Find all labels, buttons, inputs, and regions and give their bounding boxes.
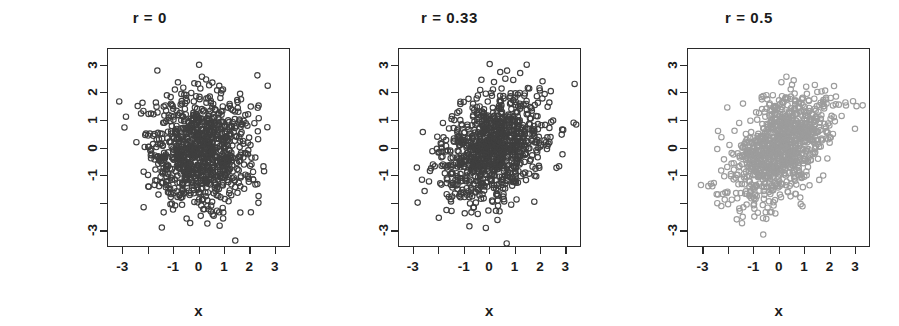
y-tick-mark <box>391 203 398 204</box>
x-tick-mark <box>702 247 703 254</box>
x-tick-label: 3 <box>552 259 578 274</box>
y-tick-mark <box>391 120 398 121</box>
x-tick-mark <box>249 247 250 254</box>
plot-area <box>398 48 581 247</box>
x-tick-mark <box>515 247 516 254</box>
x-tick-mark <box>830 247 831 254</box>
x-tick-mark <box>148 247 149 254</box>
x-tick-mark <box>224 247 225 254</box>
scatter-points <box>688 49 870 247</box>
x-tick-mark <box>275 247 276 254</box>
x-tick-label: -1 <box>160 259 186 274</box>
y-tick-label: 1 <box>666 107 680 133</box>
panel-title: r = 0 <box>0 9 300 26</box>
x-tick-mark <box>728 247 729 254</box>
plot-area <box>687 48 870 247</box>
panel-title: r = 0.33 <box>300 9 600 26</box>
y-tick-label: 3 <box>86 52 100 78</box>
y-tick-label: -1 <box>86 162 100 188</box>
scatter-panel-2: r = 0.33z, weakly correlatedx-3-10123-3-… <box>300 0 600 326</box>
x-tick-mark <box>122 247 123 254</box>
x-tick-label: 0 <box>766 259 792 274</box>
y-tick-mark <box>680 92 687 93</box>
x-tick-label: 1 <box>502 259 528 274</box>
x-tick-mark <box>199 247 200 254</box>
x-tick-label: 2 <box>527 259 553 274</box>
y-tick-label: 2 <box>86 79 100 105</box>
x-tick-label: 0 <box>476 259 502 274</box>
scatter-panel-3: r = 0.5z, moderately correlatedx-3-10123… <box>599 0 899 326</box>
y-tick-mark <box>680 148 687 149</box>
y-tick-mark <box>100 92 107 93</box>
y-tick-label: 0 <box>377 135 391 161</box>
y-tick-mark <box>680 230 687 231</box>
scatter-points <box>399 49 581 247</box>
x-tick-mark <box>438 247 439 254</box>
y-tick-mark <box>100 65 107 66</box>
scatter-points <box>108 49 290 247</box>
x-tick-label: 3 <box>842 259 868 274</box>
y-tick-mark <box>100 148 107 149</box>
y-tick-mark <box>391 92 398 93</box>
y-tick-label: 2 <box>377 79 391 105</box>
scatter-panel-1: r = 0z, uncorrelatedx-3-10123-3-10123 <box>0 0 300 326</box>
figure-root: r = 0z, uncorrelatedx-3-10123-3-10123r =… <box>0 0 899 326</box>
y-tick-label: 3 <box>666 52 680 78</box>
y-tick-label: 0 <box>86 135 100 161</box>
x-tick-label: 2 <box>817 259 843 274</box>
y-tick-mark <box>391 175 398 176</box>
y-tick-mark <box>680 65 687 66</box>
x-axis-label: x <box>398 302 581 319</box>
y-tick-label: 1 <box>86 107 100 133</box>
y-tick-mark <box>100 230 107 231</box>
x-tick-label: 3 <box>262 259 288 274</box>
x-tick-label: -1 <box>740 259 766 274</box>
y-tick-mark <box>680 203 687 204</box>
y-tick-label: -1 <box>377 162 391 188</box>
x-tick-label: 1 <box>211 259 237 274</box>
panel-title: r = 0.5 <box>599 9 899 26</box>
x-tick-mark <box>173 247 174 254</box>
y-tick-label: -3 <box>377 217 391 243</box>
y-tick-mark <box>391 65 398 66</box>
x-tick-label: -1 <box>451 259 477 274</box>
plot-area <box>107 48 290 247</box>
x-tick-mark <box>489 247 490 254</box>
y-tick-label: 2 <box>666 79 680 105</box>
y-tick-label: 0 <box>666 135 680 161</box>
x-tick-mark <box>413 247 414 254</box>
y-tick-label: -1 <box>666 162 680 188</box>
x-tick-label: -3 <box>689 259 715 274</box>
x-tick-mark <box>565 247 566 254</box>
x-axis-label: x <box>687 302 870 319</box>
y-tick-mark <box>680 175 687 176</box>
x-tick-label: 2 <box>236 259 262 274</box>
y-tick-mark <box>100 120 107 121</box>
x-tick-mark <box>753 247 754 254</box>
y-tick-mark <box>100 203 107 204</box>
y-tick-mark <box>680 120 687 121</box>
x-tick-mark <box>779 247 780 254</box>
y-tick-mark <box>391 148 398 149</box>
y-tick-label: -3 <box>86 217 100 243</box>
x-tick-mark <box>540 247 541 254</box>
x-tick-label: 1 <box>791 259 817 274</box>
y-tick-mark <box>100 175 107 176</box>
y-tick-label: 3 <box>377 52 391 78</box>
x-tick-label: -3 <box>109 259 135 274</box>
x-tick-mark <box>464 247 465 254</box>
x-tick-label: 0 <box>186 259 212 274</box>
x-tick-mark <box>855 247 856 254</box>
y-tick-mark <box>391 230 398 231</box>
y-tick-label: -3 <box>666 217 680 243</box>
x-tick-mark <box>804 247 805 254</box>
x-axis-label: x <box>107 302 290 319</box>
y-tick-label: 1 <box>377 107 391 133</box>
x-tick-label: -3 <box>400 259 426 274</box>
